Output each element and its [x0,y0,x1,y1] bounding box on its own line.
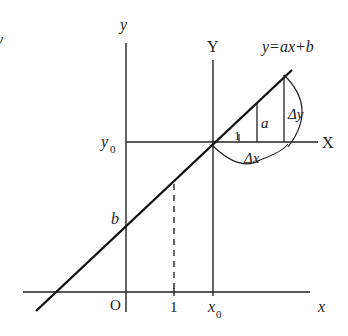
rise-a-label: a [261,115,269,131]
y0-subscript: 0 [110,143,116,155]
y-intercept-label: b [111,210,119,227]
run-unit-label: 1 [234,128,241,143]
x0-label: x [207,298,215,315]
y-axis-label: y [118,16,128,34]
unit-tick-label: 1 [170,299,178,315]
delta-y-label: Δy [287,106,304,122]
x-axis-label: x [317,298,325,315]
delta-x-label: Δx [243,150,260,166]
shifted-x-axis-label: X [322,134,334,151]
origin-label: O [110,297,121,313]
x0-subscript: 0 [216,308,222,320]
function-line [36,70,292,311]
stray-glyph: y [0,31,4,49]
shifted-y-axis-label: Y [207,38,219,55]
equation-label: y=ax+b [260,38,314,56]
linear-function-diagram: y y x O Y X y=ax+b y 0 b x 0 1 1 a Δy Δx [0,0,348,336]
y0-label: y [99,133,109,151]
